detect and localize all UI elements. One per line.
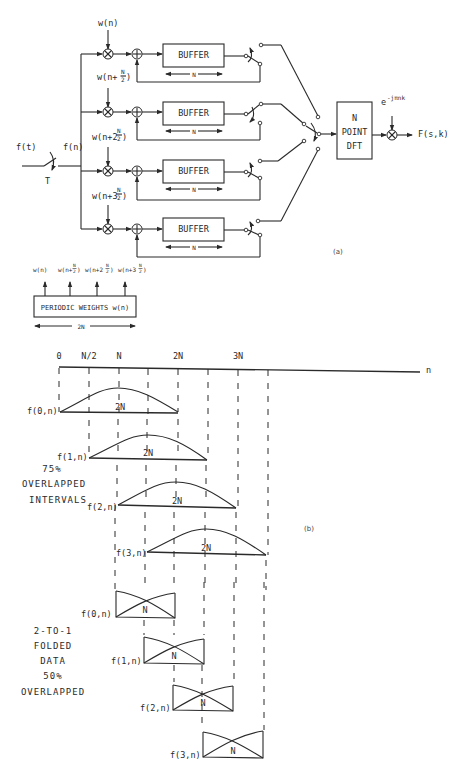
svg-text:N: N (171, 651, 176, 661)
switch-icon (244, 43, 263, 66)
sampling-period-label: T (45, 176, 50, 186)
weight-out-2: w(n+2 (85, 266, 103, 273)
commutator-switch-icon (302, 115, 321, 151)
window-3: f(3,n) 2N (116, 529, 266, 558)
svg-text:): ) (77, 266, 81, 273)
buffer-length: N (192, 71, 196, 78)
svg-text:): ) (126, 72, 131, 82)
folded-note: 2-TO-1 FOLDED DATA 50% OVERLAPPED (21, 626, 85, 697)
dft-label-dft: DFT (347, 141, 362, 151)
window-label: f(0,n) (27, 406, 58, 416)
svg-text:2N: 2N (172, 496, 182, 506)
buffer-label: BUFFER (178, 166, 210, 176)
svg-text:N: N (117, 186, 121, 193)
multiplier-icon (103, 224, 113, 234)
multiplier-icon (103, 166, 113, 176)
svg-text:2: 2 (117, 135, 121, 142)
adder-icon (132, 224, 142, 234)
weight-label: w(n) (98, 18, 118, 28)
overlap-note: 75% OVERLAPPED INTERVALS (22, 464, 87, 505)
svg-text:OVERLAPPED: OVERLAPPED (21, 687, 85, 697)
svg-text:50%: 50% (43, 671, 62, 681)
tick-n-half: N/2 (81, 351, 96, 361)
periodic-weights-label: PERIODIC WEIGHTS w(n) (41, 304, 130, 312)
periodic-weights: w(n) w(n+ N 2 ) w(n+2 N 2 ) w(n+3 N 2 ) … (33, 263, 147, 330)
folded-1: f(1,n) N (111, 637, 204, 666)
buffer-label: BUFFER (178, 108, 210, 118)
weight-label: w(n+2 (92, 132, 118, 142)
branch-0: w(n) BUFFER N (81, 18, 318, 116)
dft-label-n: N (352, 113, 357, 123)
svg-text:N: N (106, 263, 109, 268)
weight-out-3: w(n+3 (118, 266, 136, 273)
weight-out-1: w(n+ (58, 266, 73, 273)
weight-label: w(n+ (97, 72, 117, 82)
sampler-switch-icon (44, 152, 56, 170)
part-b-label: (b) (304, 525, 314, 533)
buffer-length: N (192, 128, 196, 135)
switch-icon (244, 219, 262, 237)
svg-text:): ) (122, 132, 127, 142)
folded-0: f(0,n) N (81, 591, 175, 619)
tick-3n: 3N (233, 351, 243, 361)
svg-text:2N: 2N (201, 543, 211, 553)
dft-block-diagram: f(t) f(n) T w(n) BUFFER N (0, 0, 458, 763)
svg-text:DATA: DATA (40, 656, 66, 666)
window-2: f(2,n) 2N (87, 482, 236, 512)
svg-text:2: 2 (73, 269, 76, 274)
twiddle-exponent: -jπnk (387, 94, 405, 102)
axis-variable: n (426, 365, 431, 375)
adder-icon (132, 49, 142, 59)
input-signal-label: f(t) (16, 142, 36, 152)
svg-text:): ) (122, 191, 127, 201)
branch-2: w(n+2 N 2 ) BUFFER N (81, 127, 304, 200)
buffer-length: N (192, 186, 196, 193)
window-label: f(1,n) (57, 452, 88, 462)
svg-text:2: 2 (121, 76, 125, 83)
n-axis (59, 367, 420, 372)
folded-2: f(2,n) N (140, 685, 233, 713)
buffer-label: BUFFER (178, 50, 210, 60)
weight-out-0: w(n) (33, 266, 47, 273)
grid-dashes (59, 368, 268, 730)
folded-label: f(3,n) (170, 750, 201, 760)
folded-label: f(0,n) (81, 609, 112, 619)
svg-text:OVERLAPPED: OVERLAPPED (22, 479, 86, 489)
svg-text:INTERVALS: INTERVALS (29, 495, 87, 505)
output-label: F(s,k) (418, 129, 449, 139)
weight-label: w(n+3 (92, 191, 118, 201)
adder-icon (132, 166, 142, 176)
sampled-signal-label: f(n) (63, 142, 83, 152)
adder-icon (132, 107, 142, 117)
svg-text:N: N (200, 698, 205, 708)
svg-text:2: 2 (106, 269, 109, 274)
window-1: f(1,n) 2N (57, 435, 207, 462)
buffer-length: N (192, 244, 196, 251)
window-label: f(2,n) (87, 502, 118, 512)
svg-text:N: N (142, 605, 147, 615)
switch-icon (244, 102, 263, 125)
tick-n: N (116, 351, 121, 361)
svg-text:N: N (117, 127, 121, 134)
output-multiplier-icon (387, 130, 397, 140)
folded-label: f(2,n) (140, 703, 171, 713)
folded-3: f(3,n) N (170, 731, 263, 760)
branch-1: w(n+ N 2 ) BUFFER N (81, 68, 304, 140)
dft-label-point: POINT (342, 127, 368, 137)
switch-icon (244, 159, 262, 180)
part-a: f(t) f(n) T w(n) BUFFER N (16, 18, 449, 330)
svg-text:2N: 2N (115, 402, 125, 412)
svg-text:): ) (110, 266, 114, 273)
tick-0: 0 (56, 351, 61, 361)
window-label: f(3,n) (116, 548, 147, 558)
svg-text:N: N (139, 263, 142, 268)
part-a-label: (a) (333, 248, 343, 256)
folded-label: f(1,n) (111, 656, 142, 666)
svg-text:FOLDED: FOLDED (34, 641, 73, 651)
svg-text:N: N (230, 746, 235, 756)
multiplier-icon (103, 49, 113, 59)
svg-text:N: N (121, 68, 125, 75)
tick-2n: 2N (173, 351, 183, 361)
svg-text:2N: 2N (143, 448, 153, 458)
window-0: f(0,n) 2N (27, 388, 178, 416)
